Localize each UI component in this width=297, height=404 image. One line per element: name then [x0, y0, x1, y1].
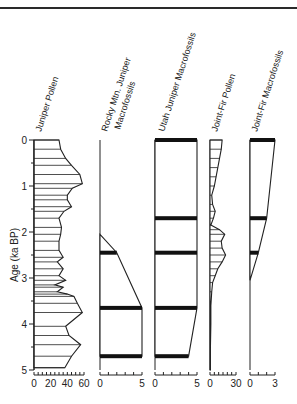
x-tick-label: 40: [62, 378, 74, 389]
y-tick-label: 5: [21, 365, 27, 376]
x-tick-label: 60: [78, 378, 90, 389]
panel-jf_pollen: 030: [207, 140, 242, 389]
title-jf-pollen: Joint-Fir Pollen: [209, 72, 237, 132]
macrofossil-bar: [155, 216, 197, 220]
macrofossil-bar: [155, 138, 197, 142]
y-axis: 012345: [21, 135, 34, 376]
y-axis-label: Age (ka BP): [9, 228, 20, 282]
x-tick-label: 0: [247, 378, 253, 389]
y-tick-label: 2: [21, 227, 27, 238]
macrofossil-bar: [155, 354, 189, 358]
macrofossil-bar: [155, 251, 197, 255]
x-tick-label: 0: [207, 378, 213, 389]
title-jf-macro: Joint-Fir Macrofossils: [249, 48, 285, 132]
x-tick-label: 20: [45, 378, 57, 389]
macrofossil-bar: [100, 251, 117, 255]
macrofossil-outline: [155, 140, 197, 356]
macrofossil-bar: [250, 216, 267, 220]
macrofossil-bar: [100, 306, 142, 310]
macrofossil-bar: [250, 251, 258, 255]
macrofossil-bar: [250, 138, 275, 142]
panel-jf_macro: 03: [247, 138, 278, 389]
x-tick-label: 30: [230, 378, 242, 389]
title-utah: Utah Juniper Macrofossils: [156, 31, 198, 133]
y-tick-label: 0: [21, 135, 27, 146]
panels: 0204060050503003: [31, 138, 278, 389]
pollen-diagram: Juniper Pollen Rocky Mtn. Juniper Macrof…: [0, 0, 297, 404]
title-juniper-pollen: Juniper Pollen: [33, 75, 60, 132]
panel-utah: 05: [152, 138, 200, 389]
x-tick-label: 0: [31, 378, 37, 389]
x-tick-label: 3: [272, 378, 278, 389]
macrofossil-outline: [250, 140, 275, 280]
x-tick-label: 5: [139, 378, 145, 389]
macrofossil-bar: [155, 306, 197, 310]
x-tick-label: 0: [152, 378, 158, 389]
y-tick-label: 4: [21, 319, 27, 330]
panel-rocky: 05: [97, 140, 145, 389]
x-tick-label: 0: [97, 378, 103, 389]
panel-juniper_pollen: 0204060: [31, 140, 90, 389]
y-tick-label: 3: [21, 273, 27, 284]
x-tick-label: 5: [194, 378, 200, 389]
y-tick-label: 1: [21, 181, 27, 192]
macrofossil-bar: [100, 354, 142, 358]
